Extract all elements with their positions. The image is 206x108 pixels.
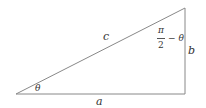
triangle-shape xyxy=(0,0,206,108)
fraction-denominator: 2 xyxy=(158,41,164,50)
fraction-numerator: π xyxy=(158,26,164,35)
height-label: b xyxy=(188,45,195,56)
base-label: a xyxy=(96,96,103,107)
hypotenuse-label: c xyxy=(103,31,109,42)
right-triangle-diagram: c a b θ π 2 − θ xyxy=(0,0,206,108)
angle-theta-label: θ xyxy=(35,84,40,93)
angle-suffix: − θ xyxy=(168,34,184,43)
fraction-bar xyxy=(157,38,165,39)
